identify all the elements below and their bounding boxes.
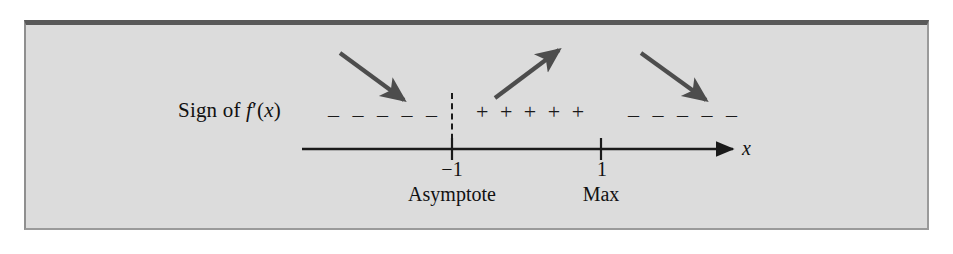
- paren-close: ): [274, 98, 281, 122]
- sign-of-derivative-label: Sign of f′(x): [178, 98, 281, 123]
- tick-label-neg1: −1: [432, 158, 472, 181]
- sign-chart-figure: Sign of f′(x) – – – – – + + + + + – – – …: [0, 0, 953, 254]
- sign-group-negative-left: – – – – –: [328, 104, 441, 126]
- tick-label-pos1: 1: [582, 158, 622, 181]
- axis-variable-label: x: [742, 137, 751, 160]
- sign-of-prefix-text: Sign of: [178, 98, 246, 122]
- variable-x-symbol: x: [264, 98, 274, 122]
- asymptote-dashed-line: [451, 93, 453, 150]
- tick-note-asymptote: Asymptote: [382, 183, 522, 206]
- sign-group-positive-middle: + + + + +: [476, 101, 587, 123]
- tick-note-max: Max: [561, 183, 641, 206]
- sign-group-negative-right: – – – – –: [628, 104, 741, 126]
